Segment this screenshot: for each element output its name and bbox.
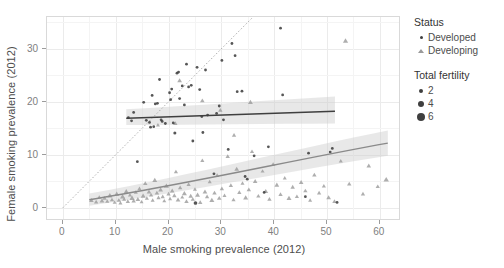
data-point-developed — [279, 27, 282, 30]
data-point-developing — [322, 184, 326, 188]
legend-item-fertility-2[interactable]: 2 — [414, 84, 502, 97]
data-point-developed — [142, 101, 145, 104]
x-axis-tick — [379, 220, 380, 224]
data-point-developed — [253, 154, 256, 157]
data-point-developing — [231, 198, 235, 202]
data-point-developed — [220, 59, 223, 62]
data-point-developed — [178, 97, 181, 100]
legend: Status DevelopedDeveloping Total fertili… — [414, 16, 502, 135]
x-axis-tick — [273, 220, 274, 224]
legend-label: 4 — [428, 98, 434, 109]
data-point-developing — [184, 199, 188, 203]
data-point-developed — [304, 195, 307, 198]
data-point-developing — [200, 98, 205, 102]
data-point-developing — [326, 195, 331, 199]
legend-item-fertility-4[interactable]: 4 — [414, 97, 502, 110]
data-point-developing — [347, 182, 351, 186]
data-point-developing — [290, 185, 294, 189]
y-axis-tick-label: 10 — [27, 148, 38, 159]
data-point-developing — [312, 173, 316, 177]
data-point-developing — [295, 195, 299, 199]
data-point-developing — [247, 188, 251, 192]
data-point-developing — [203, 189, 208, 193]
data-point-developed — [161, 120, 164, 123]
circle-size-marker-icon — [414, 97, 428, 110]
x-axis-tick-label: 20 — [162, 226, 173, 237]
data-point-developed — [177, 71, 180, 74]
data-point-developed — [168, 91, 171, 94]
legend-label: Developed — [428, 32, 476, 43]
x-axis-tick-label: 50 — [320, 226, 331, 237]
data-point-developed — [263, 191, 266, 194]
y-axis-title: Female smoking prevalence (2012) — [0, 0, 22, 268]
y-axis-tick-label: 30 — [27, 42, 38, 53]
data-point-developing — [383, 177, 388, 182]
data-point-developing — [303, 189, 307, 193]
legend-fertility: Total fertility 246 — [414, 69, 502, 123]
data-point-developing — [162, 199, 166, 202]
y-axis-tick — [42, 207, 46, 208]
data-point-developing — [209, 198, 214, 202]
data-point-developed — [181, 84, 184, 87]
y-axis-tick-label: 0 — [32, 201, 38, 212]
x-axis-tick-label: 40 — [268, 226, 279, 237]
legend-label: 2 — [428, 85, 434, 96]
data-point-developed — [227, 148, 230, 151]
data-point-developed — [231, 42, 234, 45]
data-point-developed — [185, 63, 188, 66]
data-point-developing — [152, 178, 157, 182]
legend-status: Status DevelopedDeveloping — [414, 16, 502, 57]
legend-item-status-developed[interactable]: Developed — [414, 31, 502, 44]
triangle-marker-icon — [414, 44, 428, 57]
x-axis-tick-label: 60 — [373, 226, 384, 237]
legend-item-status-developing[interactable]: Developing — [414, 44, 502, 57]
data-point-developed — [136, 160, 139, 163]
data-point-developed — [183, 104, 186, 107]
data-point-developed — [215, 112, 218, 115]
data-point-developing — [278, 192, 282, 196]
plot-panel — [46, 16, 400, 220]
data-point-developing — [161, 194, 165, 198]
data-point-developing — [229, 183, 233, 187]
data-point-developed — [307, 152, 310, 155]
data-point-developing — [182, 191, 187, 195]
data-point-developing — [220, 187, 224, 191]
data-point-developed — [246, 178, 249, 181]
data-point-developing — [174, 170, 178, 174]
data-point-developing — [200, 159, 204, 163]
data-point-developed — [152, 125, 155, 128]
data-point-developing — [198, 200, 202, 204]
data-point-developed — [196, 66, 199, 69]
data-point-developing — [343, 38, 348, 42]
data-point-developed — [132, 111, 135, 114]
data-point-developed — [169, 98, 172, 101]
data-point-developing — [361, 192, 365, 196]
data-point-developed — [244, 175, 247, 178]
data-point-developed — [164, 122, 167, 125]
data-point-developing — [250, 150, 254, 154]
data-point-developed — [204, 69, 207, 72]
circle-size-marker-icon — [414, 110, 428, 123]
data-point-developing — [308, 198, 312, 201]
data-point-developing — [225, 154, 229, 158]
data-point-developed — [156, 102, 159, 105]
legend-label: Developing — [428, 45, 478, 56]
data-point-developed — [158, 78, 161, 81]
data-point-developing — [240, 181, 244, 184]
data-point-developed — [173, 132, 176, 135]
data-point-developed — [187, 86, 190, 89]
x-axis-tick — [115, 220, 116, 224]
data-point-developing — [156, 196, 160, 200]
circle-size-marker-icon — [414, 84, 428, 97]
circle-marker-icon — [414, 31, 428, 44]
data-point-developed — [336, 201, 339, 204]
data-point-developing — [205, 194, 209, 198]
data-point-developing — [172, 193, 176, 197]
data-point-developed — [281, 93, 284, 96]
data-point-developing — [317, 191, 321, 195]
data-point-developing — [256, 194, 260, 198]
legend-item-fertility-6[interactable]: 6 — [414, 110, 502, 123]
data-point-developed — [213, 172, 216, 175]
data-point-developed — [241, 90, 244, 93]
x-axis-title: Male smoking prevalence (2012) — [46, 243, 402, 255]
